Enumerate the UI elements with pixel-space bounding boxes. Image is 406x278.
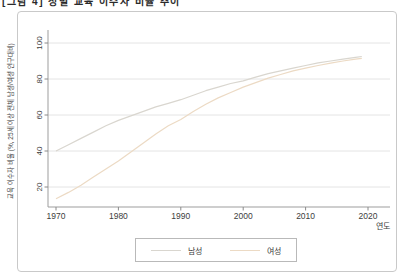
x-axis-label: 연도 xyxy=(376,220,390,231)
svg-text:40: 40 xyxy=(35,146,44,155)
svg-text:1980: 1980 xyxy=(109,211,128,221)
svg-text:2010: 2010 xyxy=(296,211,315,221)
svg-text:20: 20 xyxy=(35,182,44,191)
svg-text:2020: 2020 xyxy=(359,211,378,221)
plot-area: 19701980199020002010202020406080100 xyxy=(0,0,406,278)
y-axis-label: 교육 이수자 비율 (%, 25세 이상 전체 남성/여성 인구대비) xyxy=(5,21,15,221)
svg-text:100: 100 xyxy=(35,36,44,50)
legend-label-female: 여성 xyxy=(267,245,281,256)
legend-entry-female: 여성 xyxy=(230,245,281,256)
svg-text:1970: 1970 xyxy=(47,211,66,221)
legend-entry-male: 남성 xyxy=(151,245,202,256)
legend: 남성 여성 xyxy=(135,238,297,262)
chart-screenshot: { "caption": "[그림 4] 성별 교육 이수자 비율 추이", "… xyxy=(0,0,406,278)
svg-text:80: 80 xyxy=(35,74,44,83)
legend-label-male: 남성 xyxy=(188,245,202,256)
female-line-swatch xyxy=(230,250,260,251)
svg-text:2000: 2000 xyxy=(234,211,253,221)
svg-text:1990: 1990 xyxy=(171,211,190,221)
svg-text:60: 60 xyxy=(35,110,44,119)
male-line-swatch xyxy=(151,250,181,251)
